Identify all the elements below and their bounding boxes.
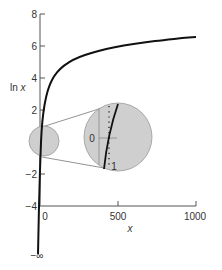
y-tick-4: 4	[31, 73, 37, 84]
neg-infinity-label: −∞	[31, 250, 44, 261]
y-tick-neg2: −2	[26, 169, 38, 180]
inset-one-label: 1	[111, 161, 117, 172]
x-tick-0: 0	[42, 211, 48, 222]
y-tick-neg4: −4	[26, 201, 38, 212]
y-tick-2: 2	[31, 105, 37, 116]
x-tick-500: 500	[110, 211, 127, 222]
x-tick-1000: 1000	[184, 211, 207, 222]
x-axis-title: x	[127, 223, 134, 234]
x-ticks	[118, 201, 196, 206]
y-axis-title: ln x	[10, 82, 27, 93]
inset-zero-label: 0	[89, 133, 95, 144]
y-tick-6: 6	[31, 41, 37, 52]
magnifier-source-circle	[29, 126, 59, 156]
ln-chart: 8 6 4 2 0 −2 −4 ln x 0 500 1000 x −∞ 0 1	[0, 0, 222, 270]
y-tick-8: 8	[31, 9, 37, 20]
